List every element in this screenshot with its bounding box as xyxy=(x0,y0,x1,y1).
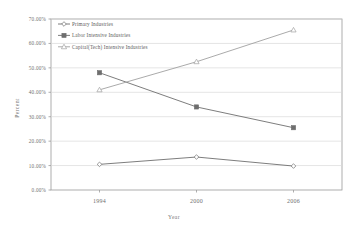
x-tick-label: 1994 xyxy=(93,198,106,204)
line-chart: 0.00%10.00%20.00%30.00%40.00%50.00%60.00… xyxy=(0,0,356,230)
x-axis-title: Year xyxy=(168,214,180,220)
legend-marker xyxy=(62,33,66,37)
chart-background xyxy=(0,0,356,230)
y-tick-label: 40.00% xyxy=(29,89,47,95)
data-point-marker xyxy=(97,71,101,75)
y-tick-label: 60.00% xyxy=(29,40,47,46)
y-tick-label: 0.00% xyxy=(32,187,47,193)
data-point-marker xyxy=(291,126,295,130)
legend-label: Labor Intensive Industries xyxy=(72,32,130,38)
y-tick-label: 20.00% xyxy=(29,138,47,144)
x-tick-label: 2000 xyxy=(190,198,203,204)
y-tick-label: 70.00% xyxy=(29,16,47,22)
data-point-marker xyxy=(194,105,198,109)
y-tick-label: 30.00% xyxy=(29,114,47,120)
legend-label: Capital(Tech) Intensive Industries xyxy=(72,44,148,51)
chart-container: 0.00%10.00%20.00%30.00%40.00%50.00%60.00… xyxy=(0,0,356,230)
x-tick-label: 2006 xyxy=(287,198,300,204)
y-axis-title: Percent xyxy=(14,98,20,118)
y-tick-label: 10.00% xyxy=(29,163,47,169)
y-tick-label: 50.00% xyxy=(29,65,47,71)
legend-label: Primary Industries xyxy=(72,21,113,27)
